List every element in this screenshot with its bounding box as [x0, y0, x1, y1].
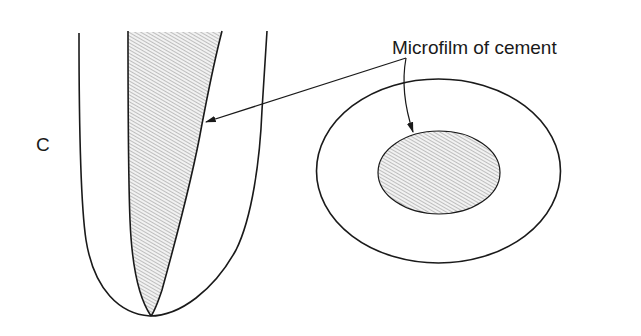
annotation-arrows: [206, 58, 413, 132]
tooth-root-longitudinal-section: [79, 31, 267, 316]
diagram-canvas: Microfilm of cement C: [0, 0, 641, 336]
cement-fill-longitudinal: [128, 32, 222, 316]
tooth-root-cross-section: [317, 79, 561, 263]
panel-label: C: [36, 134, 50, 155]
cement-fill-cross-section: [378, 131, 500, 214]
arrow-to-cross-section: [404, 58, 413, 132]
arrow-to-longitudinal: [206, 58, 406, 122]
annotation-label: Microfilm of cement: [392, 37, 557, 58]
